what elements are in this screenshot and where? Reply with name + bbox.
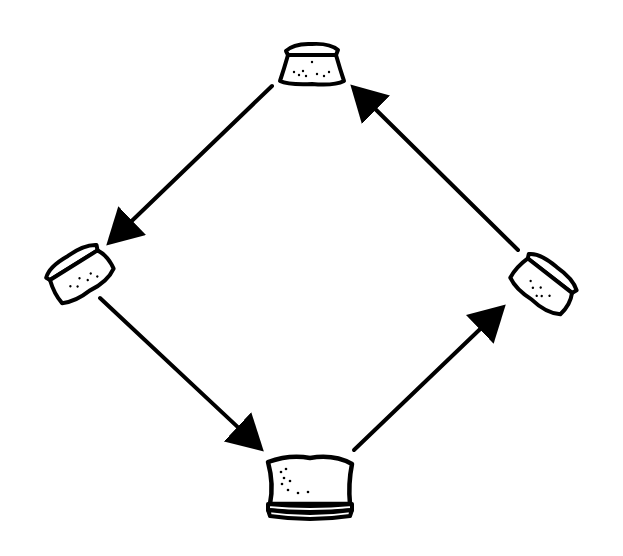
bread-slice-icon — [280, 44, 344, 85]
arrow-right-to-top — [356, 90, 518, 250]
arrow-bottom-to-right — [354, 310, 500, 450]
bread-slice-tilted-icon — [507, 248, 582, 320]
cycle-diagram — [0, 0, 623, 556]
arrow-left-to-bottom — [100, 298, 258, 446]
bread-loaf-stacked-icon — [268, 457, 352, 519]
bread-slice-tilted-icon — [42, 239, 118, 308]
diagram-canvas — [0, 0, 623, 556]
arrow-top-to-left — [112, 86, 272, 240]
